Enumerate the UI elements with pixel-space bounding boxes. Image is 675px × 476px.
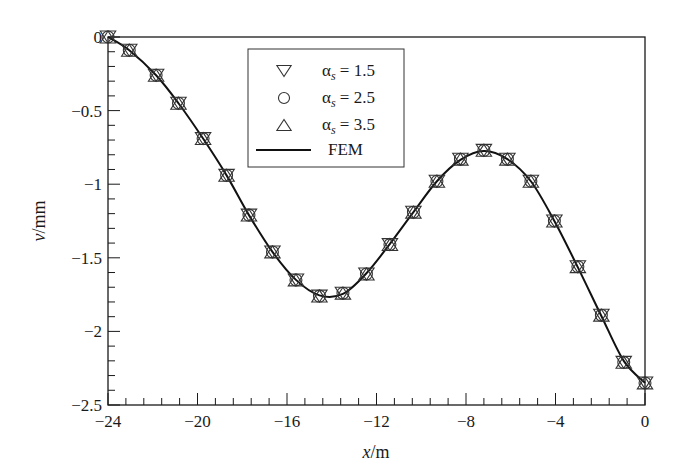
x-axis: −24−20−16−12−8−40	[95, 393, 650, 431]
y-axis: 0−0.5−1−1.5−2−2.5	[71, 28, 120, 415]
y-tick-label: −0.5	[71, 102, 102, 121]
x-tick-label: −20	[184, 412, 211, 431]
y-tick-label: −2	[84, 322, 102, 341]
x-tick-label: −16	[274, 412, 301, 431]
legend-label: αs = 1.5	[322, 61, 375, 83]
y-tick-label: −2.5	[71, 396, 102, 415]
x-axis-label: x/m	[361, 442, 389, 462]
y-axis-label: v/mm	[29, 200, 49, 241]
x-tick-label: −4	[546, 412, 565, 431]
legend-label: FEM	[328, 140, 363, 159]
chart: −24−20−16−12−8−40 0−0.5−1−1.5−2−2.5 x/m …	[0, 0, 675, 476]
x-tick-label: 0	[641, 412, 650, 431]
legend-label: αs = 3.5	[322, 115, 375, 137]
y-tick-label: −1	[84, 175, 102, 194]
legend-label: αs = 2.5	[322, 88, 375, 110]
x-tick-label: −12	[363, 412, 390, 431]
x-tick-label: −8	[457, 412, 475, 431]
legend: αs = 1.5αs = 2.5αs = 3.5FEM	[248, 49, 404, 167]
y-tick-label: −1.5	[71, 249, 102, 268]
